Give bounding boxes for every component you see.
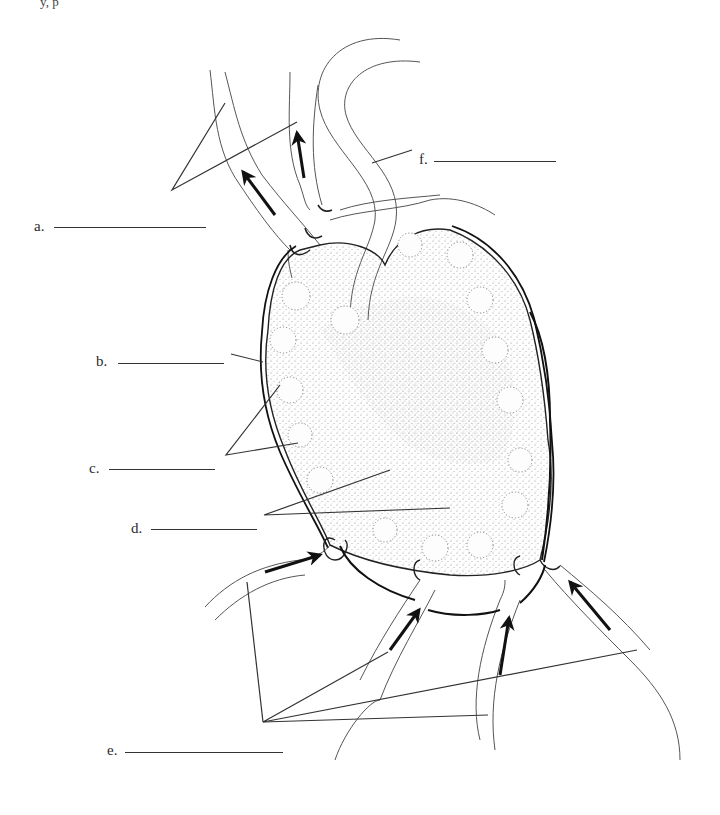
label-c: c. — [89, 460, 99, 476]
lymph-node-diagram — [0, 0, 720, 815]
cropped-header-fragment: y, p — [40, 0, 59, 10]
answer-blank-c[interactable] — [109, 469, 215, 470]
answer-blank-d[interactable] — [151, 529, 257, 530]
label-b: b. — [96, 353, 107, 369]
label-d: d. — [131, 520, 142, 536]
lymph-node-body — [261, 226, 554, 576]
answer-blank-f[interactable] — [434, 161, 556, 162]
answer-blank-b[interactable] — [118, 363, 224, 364]
answer-blank-a[interactable] — [54, 227, 206, 228]
label-a: a. — [34, 218, 44, 234]
leader-e2 — [263, 650, 637, 722]
label-e: e. — [107, 742, 117, 758]
answer-blank-e[interactable] — [125, 752, 283, 753]
label-f: f. — [419, 151, 428, 167]
leader-e1 — [247, 582, 263, 722]
leader-f — [372, 150, 412, 163]
leader-b — [231, 354, 263, 362]
